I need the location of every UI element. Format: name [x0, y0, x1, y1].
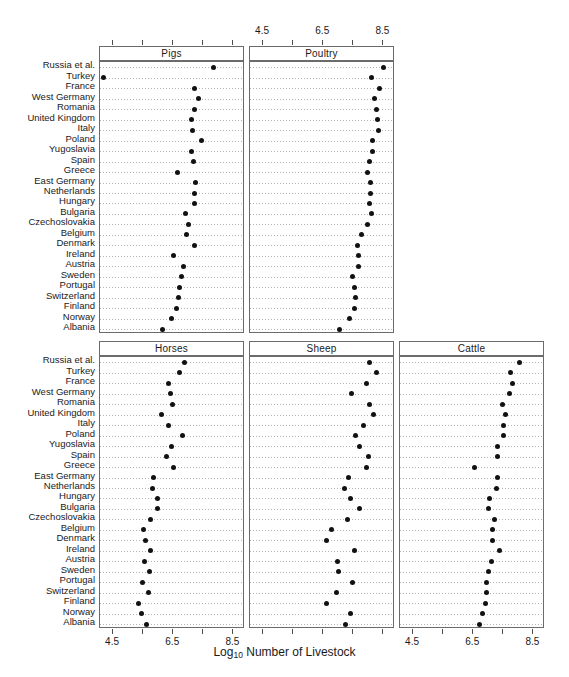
data-point — [484, 590, 489, 595]
data-point — [346, 475, 351, 480]
gridline — [100, 141, 243, 142]
data-point — [144, 622, 149, 627]
country-label: Albania — [3, 617, 95, 628]
data-point — [192, 191, 197, 196]
data-point — [177, 370, 182, 375]
country-label: Greece — [3, 165, 95, 176]
gridline — [250, 266, 393, 267]
gridline — [250, 603, 393, 604]
gridline — [250, 457, 393, 458]
data-point — [348, 496, 353, 501]
gridline — [400, 394, 543, 395]
data-point — [371, 412, 376, 417]
axis-tick — [322, 629, 323, 634]
data-point — [517, 360, 522, 365]
gridline — [100, 162, 243, 163]
data-point — [350, 580, 355, 585]
gridline — [250, 256, 393, 257]
trellis-dotplot-figure: Russia et al.TurkeyFranceWest GermanyRom… — [0, 0, 569, 677]
gridline — [100, 99, 243, 100]
data-point — [179, 274, 184, 279]
data-point — [160, 327, 165, 332]
gridline — [250, 498, 393, 499]
axis-ticks-poultry — [249, 40, 394, 45]
data-point — [211, 65, 216, 70]
gridline — [250, 383, 393, 384]
data-point — [182, 360, 187, 365]
data-point — [147, 569, 152, 574]
data-point — [189, 117, 194, 122]
gridline — [100, 519, 243, 520]
gridline — [250, 509, 393, 510]
plot-area-poultry — [249, 61, 394, 333]
gridline — [400, 582, 543, 583]
plot-area-pigs — [99, 61, 244, 333]
data-point — [355, 243, 360, 248]
plot-area-cattle — [399, 356, 544, 628]
data-point — [155, 506, 160, 511]
x-axis-title: Log10 Number of Livestock — [0, 645, 569, 659]
gridline — [400, 561, 543, 562]
data-point — [196, 96, 201, 101]
gridline — [100, 245, 243, 246]
data-point — [192, 243, 197, 248]
gridline — [100, 183, 243, 184]
gridline — [100, 488, 243, 489]
data-point — [486, 569, 491, 574]
gridline — [100, 603, 243, 604]
gridline — [250, 425, 393, 426]
data-point — [143, 538, 148, 543]
gridline — [100, 478, 243, 479]
data-point — [164, 454, 169, 459]
gridline — [400, 530, 543, 531]
data-point — [369, 75, 374, 80]
country-label: Yugoslavia — [3, 439, 95, 450]
data-point — [139, 611, 144, 616]
gridline — [250, 582, 393, 583]
gridline — [100, 78, 243, 79]
data-point — [329, 527, 334, 532]
data-point — [352, 306, 357, 311]
gridline — [100, 530, 243, 531]
data-point — [487, 496, 492, 501]
axis-tick — [172, 40, 173, 45]
plot-area-horses — [99, 356, 244, 628]
data-point — [191, 159, 196, 164]
data-point — [495, 475, 500, 480]
gridline — [100, 415, 243, 416]
gridline — [100, 582, 243, 583]
data-point — [374, 107, 379, 112]
data-point — [508, 370, 513, 375]
data-point — [359, 232, 364, 237]
gridline — [100, 203, 243, 204]
axis-tick — [232, 629, 233, 634]
gridline — [250, 551, 393, 552]
axis-tick — [262, 40, 263, 45]
data-point — [101, 75, 106, 80]
gridline — [250, 572, 393, 573]
data-point — [503, 412, 508, 417]
gridline — [400, 415, 543, 416]
gridline — [100, 214, 243, 215]
gridline — [100, 172, 243, 173]
gridline — [250, 277, 393, 278]
data-point — [365, 170, 370, 175]
data-point — [183, 211, 188, 216]
gridline — [250, 224, 393, 225]
data-point — [192, 86, 197, 91]
gridline — [250, 109, 393, 110]
panel-title-horses: Horses — [99, 341, 244, 356]
x-axis-title-log: Log — [213, 645, 233, 659]
axis-tick-label: 6.5 — [315, 25, 329, 36]
axis-tick — [112, 40, 113, 45]
data-point — [486, 506, 491, 511]
axis-tick — [202, 40, 203, 45]
data-point — [381, 65, 386, 70]
data-point — [337, 327, 342, 332]
panel-pigs: Pigs — [99, 46, 244, 333]
gridline — [250, 120, 393, 121]
gridline — [100, 561, 243, 562]
data-point — [342, 486, 347, 491]
panel-title-cattle: Cattle — [399, 341, 544, 356]
data-point — [175, 170, 180, 175]
